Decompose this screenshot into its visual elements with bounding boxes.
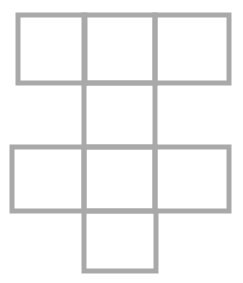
- square-row3-center: [84, 147, 155, 211]
- square-top-left: [18, 15, 85, 83]
- square-top-right: [155, 15, 229, 83]
- square-middle-center: [84, 83, 155, 147]
- square-top-center: [84, 15, 155, 83]
- square-bottom-center: [84, 211, 156, 271]
- square-row3-right: [155, 147, 229, 211]
- square-net-diagram: [0, 0, 243, 283]
- square-row3-left: [12, 147, 84, 211]
